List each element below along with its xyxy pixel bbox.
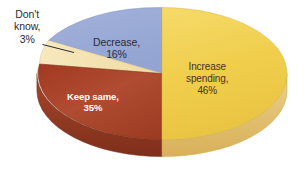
slice-label-increase-line1: Increase [186, 61, 228, 73]
pie-chart: Don't know, 3% Decrease, 16% Increase sp… [0, 0, 305, 173]
slice-label-increase-value: 46% [186, 85, 228, 97]
slice-label-keep-same-value: 35% [67, 102, 119, 113]
slice-label-dont-know: Don't know, 3% [14, 8, 40, 45]
slice-label-decrease-line1: Decrease, [93, 36, 140, 48]
slice-label-keep-same: Keep same, 35% [67, 91, 119, 113]
pie-chart-canvas [0, 0, 305, 173]
slice-label-increase-line2: spending, [186, 73, 228, 85]
slice-label-increase-spending: Increase spending, 46% [186, 61, 228, 96]
slice-label-dont-know-line1: Don't [14, 8, 40, 20]
slice-label-decrease: Decrease, 16% [93, 36, 140, 61]
slice-label-dont-know-value: 3% [14, 33, 40, 45]
slice-label-dont-know-line2: know, [14, 20, 40, 32]
slice-label-decrease-value: 16% [93, 48, 140, 60]
slice-label-keep-same-line1: Keep same, [67, 91, 119, 102]
